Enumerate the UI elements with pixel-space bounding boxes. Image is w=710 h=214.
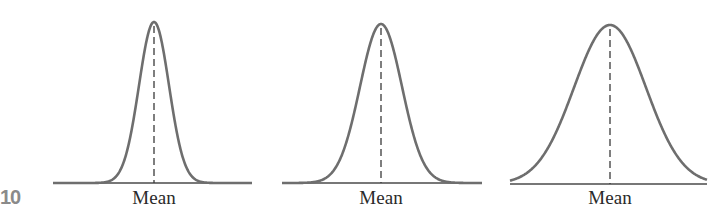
normal-curve-medium	[282, 24, 482, 183]
normal-curve-narrow	[53, 22, 252, 183]
mean-label-narrow: Mean	[132, 187, 175, 209]
mean-label-wide: Mean	[588, 187, 631, 209]
mean-label-medium: Mean	[359, 187, 402, 209]
bell-curve	[510, 25, 707, 181]
figure-number: 10	[0, 186, 20, 209]
normal-curve-wide	[510, 25, 707, 184]
bell-curve	[53, 22, 252, 183]
bell-curve	[282, 24, 482, 183]
normal-curves-figure	[0, 0, 710, 214]
